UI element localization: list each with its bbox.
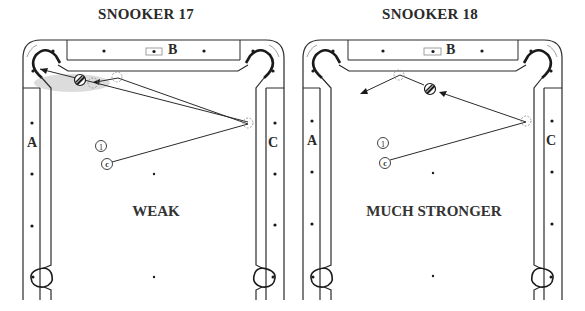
rail-label-c: C <box>546 133 556 149</box>
marker-label: 1 <box>381 140 385 149</box>
rail-diamonds <box>310 48 553 226</box>
pocket-middle-right <box>532 268 553 287</box>
table-outer-edge <box>303 40 562 300</box>
left-cushion <box>322 78 331 268</box>
striped-ball <box>75 75 86 86</box>
striped-ball <box>425 84 436 95</box>
panel-snooker-18: SNOOKER 18 <box>290 0 582 311</box>
snooker-table-diagram: 1 c <box>290 0 582 311</box>
verdict-label: MUCH STRONGER <box>288 203 580 220</box>
rail-label-a: A <box>27 135 37 151</box>
arrowhead <box>40 68 48 74</box>
marker-label: 1 <box>99 143 103 152</box>
panel-snooker-17: SNOOKER 17 <box>0 0 292 311</box>
pocket-top-right <box>246 45 279 78</box>
snooker-table-diagram: 1 c <box>0 0 292 311</box>
pocket-top-left <box>307 45 340 78</box>
top-cushion <box>339 65 526 71</box>
marker-label: c <box>383 159 387 168</box>
pocket-middle-left <box>31 268 52 287</box>
marker-label: c <box>105 160 109 169</box>
ghost-ball <box>112 72 122 82</box>
pocket-top-right <box>524 45 557 78</box>
arrowhead <box>360 88 368 94</box>
rail-label-a: A <box>307 133 317 149</box>
pocket-middle-left <box>311 268 332 287</box>
rail-label-b: B <box>168 42 177 58</box>
table-spot <box>153 276 155 278</box>
top-cushion <box>58 65 248 71</box>
table-spot <box>432 275 434 277</box>
right-cushion <box>534 78 542 268</box>
right-cushion <box>256 78 264 268</box>
pocket-middle-right <box>254 268 275 287</box>
rail-label-c: C <box>268 135 278 151</box>
table-spot <box>153 173 155 175</box>
rail-label-b: B <box>446 42 455 58</box>
table-spot <box>432 172 434 174</box>
left-cushion <box>42 78 51 268</box>
verdict-label: WEAK <box>10 203 302 220</box>
